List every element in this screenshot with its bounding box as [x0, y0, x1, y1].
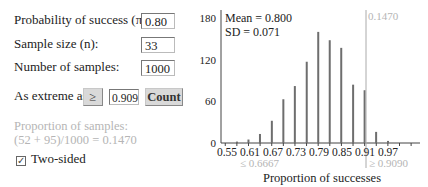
y-tick-label: 180	[200, 12, 217, 24]
histogram-bar	[259, 134, 261, 143]
histogram-bar	[340, 48, 342, 143]
x-tick-label: 0.55	[217, 146, 237, 158]
histogram-bar	[282, 99, 284, 143]
upper-tail-label: ≥ 0.9090	[369, 157, 409, 169]
x-tick-label: 0.73	[286, 146, 306, 158]
mean-text: Mean = 0.800	[225, 11, 292, 25]
cutoff-label: 0.1470	[368, 10, 399, 22]
histogram-bar	[387, 141, 389, 143]
histogram-bar	[294, 86, 296, 143]
x-axis-title: Proportion of successes	[263, 171, 381, 185]
x-tick-label: 0.85	[332, 146, 352, 158]
y-axis-ticks: 060120180	[200, 12, 217, 149]
histogram-bar	[352, 85, 354, 143]
histogram-bar	[236, 142, 238, 143]
lower-tail-label: ≤ 0.6667	[240, 157, 280, 169]
sd-text: SD = 0.071	[225, 25, 280, 39]
y-tick-label: 0	[211, 137, 217, 149]
histogram-chart: 060120180 0.1470 Mean = 0.800 SD = 0.071…	[0, 0, 428, 187]
histogram-bar	[329, 40, 331, 143]
x-tick-label: 0.79	[309, 146, 329, 158]
histogram-bar	[247, 140, 249, 143]
histogram-bar	[306, 62, 308, 143]
y-tick-label: 120	[200, 54, 217, 66]
histogram-bar	[364, 90, 366, 143]
histogram-bar	[317, 32, 319, 143]
histogram-bar	[271, 121, 273, 143]
histogram-bar	[375, 132, 377, 143]
y-tick-label: 60	[205, 95, 217, 107]
